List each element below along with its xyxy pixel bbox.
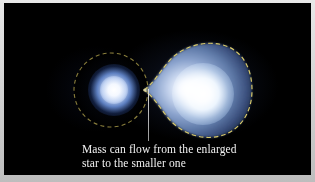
caption-line-1: Mass can flow from the enlarged (82, 143, 292, 157)
binary-star-figure: Mass can flow from the enlarged star to … (0, 0, 315, 182)
sky-panel: Mass can flow from the enlarged star to … (4, 3, 311, 175)
figure-caption: Mass can flow from the enlarged star to … (82, 143, 292, 170)
large-star-body (144, 43, 252, 137)
caption-pointer-line (148, 89, 149, 141)
caption-line-2: star to the smaller one (82, 157, 292, 171)
lagrange-point-l1 (143, 88, 146, 91)
